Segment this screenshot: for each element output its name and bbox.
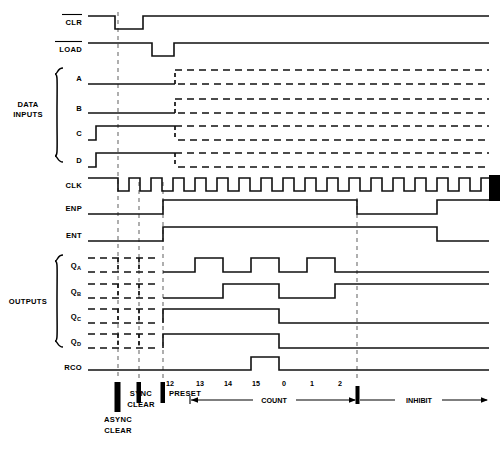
waveform-c — [88, 126, 489, 140]
edge-marker-block — [489, 175, 500, 201]
count-labels: 12 13 14 15 0 1 2 — [166, 379, 342, 388]
waveform-qa — [88, 258, 489, 272]
waveform-load — [88, 43, 489, 56]
signal-label-clr-text: CLR — [65, 18, 82, 27]
count-label-12: 12 — [166, 379, 174, 388]
waveform-clr — [88, 16, 489, 29]
group-braces: DATA INPUTS OUTPUTS — [9, 68, 63, 347]
inhibit-right-arrow — [481, 397, 488, 402]
brace-outputs — [55, 255, 63, 347]
signal-label-b: B — [76, 104, 82, 113]
signal-label-ent: ENT — [66, 231, 82, 240]
signal-label-d: D — [76, 156, 82, 165]
waveform-b — [88, 99, 489, 113]
count-label-15: 15 — [252, 379, 260, 388]
signal-label-qc: Q C — [71, 312, 82, 322]
signal-label-qb: Q B — [71, 287, 82, 297]
waveform-ent — [88, 227, 489, 241]
waveform-a — [88, 70, 489, 84]
signal-label-a: A — [76, 74, 82, 83]
timing-diagram-page: CLR LOAD A B C D CLK ENP ENT Q A Q B Q C… — [0, 0, 500, 462]
count-right-arrow — [349, 397, 356, 402]
phase-count: COUNT — [190, 396, 356, 405]
waveform-enp — [88, 200, 489, 214]
signal-label-qb-sub: B — [77, 291, 81, 297]
marker-label-async-clear-line1: ASYNC — [104, 415, 132, 424]
marker-label-preset: PRESET — [169, 389, 201, 398]
signal-label-enp: ENP — [65, 204, 82, 213]
group-label-data-inputs-line2: INPUTS — [13, 110, 43, 119]
group-label-data-inputs-line1: DATA — [17, 100, 38, 109]
waveform-d — [88, 153, 489, 167]
signal-label-load-text: LOAD — [59, 45, 82, 54]
signal-label-qa-sub: A — [77, 265, 81, 271]
marker-label-sync-clear-line1: SYNC — [130, 389, 153, 398]
signal-label-rco: RCO — [64, 363, 82, 372]
waveform-qc — [88, 309, 489, 323]
count-label-13: 13 — [196, 379, 204, 388]
marker-bar-async-clear — [115, 382, 121, 412]
marker-label-sync-clear-line2: CLEAR — [127, 400, 155, 409]
marker-label-async-clear-line2: CLEAR — [104, 426, 132, 435]
count-left-arrow — [191, 397, 198, 402]
signal-labels: CLR LOAD A B C D CLK ENP ENT Q A Q B Q C… — [55, 15, 82, 373]
brace-data-inputs — [55, 68, 63, 162]
count-label-14: 14 — [224, 379, 232, 388]
group-label-outputs: OUTPUTS — [9, 297, 47, 306]
count-label-2: 2 — [338, 379, 342, 388]
signal-label-clk: CLK — [65, 181, 82, 190]
signal-label-clr: CLR — [62, 15, 82, 28]
signal-label-load: LOAD — [55, 42, 82, 55]
count-label-0: 0 — [282, 379, 286, 388]
signal-label-qa: Q A — [71, 261, 82, 271]
phase-label-count: COUNT — [261, 396, 287, 405]
phase-label-inhibit: INHIBIT — [406, 396, 433, 405]
signal-label-qd-sub: D — [77, 341, 81, 347]
waveform-clk — [88, 178, 489, 191]
waveform-qd — [88, 334, 489, 348]
signal-label-c: C — [76, 129, 82, 138]
signal-label-qd: Q D — [71, 337, 82, 347]
count-label-1: 1 — [310, 379, 314, 388]
waveform-qb — [88, 284, 489, 298]
signal-label-qc-sub: C — [77, 316, 81, 322]
timing-diagram-svg: CLR LOAD A B C D CLK ENP ENT Q A Q B Q C… — [0, 0, 500, 462]
marker-bar-preset — [161, 382, 166, 403]
waveform-rco — [88, 357, 489, 370]
phase-inhibit: INHIBIT — [360, 396, 488, 405]
marker-bar-inhibit-start — [356, 386, 360, 404]
